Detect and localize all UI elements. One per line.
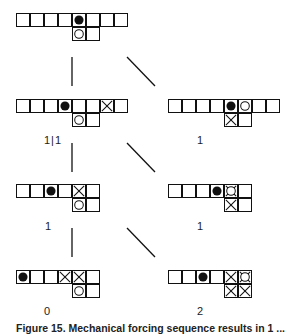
board-cell: [224, 184, 238, 198]
board-cell: [58, 270, 72, 284]
board-cell: [72, 284, 86, 298]
board-cell: [86, 270, 100, 284]
board-cell: [72, 184, 86, 198]
black-stone-icon: [73, 14, 85, 26]
board-cell: [30, 99, 44, 113]
board-cell: [72, 27, 86, 41]
board-cell: [86, 13, 100, 27]
board-cell: [238, 184, 252, 198]
board-score-label: 1: [197, 134, 204, 146]
board-cell: [86, 198, 100, 212]
board-cell: [238, 99, 252, 113]
board-cell: [30, 270, 44, 284]
board-score-label: 1: [197, 220, 204, 232]
board-cell: [16, 13, 30, 27]
board-score-label: 0: [44, 305, 51, 317]
cross-mark-icon: [225, 285, 237, 297]
cross-mark-icon: [73, 271, 85, 283]
board-cell: [86, 27, 100, 41]
connector-line: [127, 57, 155, 86]
board-cell: [72, 113, 86, 127]
black-stone-icon: [59, 100, 71, 112]
cross-mark-icon: [225, 271, 237, 283]
board-cell: [224, 270, 238, 284]
board-cell: [210, 184, 224, 198]
board-cell: [168, 184, 182, 198]
board-cell: [72, 99, 86, 113]
board-cell: [114, 13, 128, 27]
black-stone-icon: [45, 185, 57, 197]
board-cell: [224, 198, 238, 212]
board-cell: [114, 99, 128, 113]
board-cell: [86, 184, 100, 198]
board-cell: [224, 284, 238, 298]
board-cell: [44, 270, 58, 284]
board-cell: [72, 270, 86, 284]
board-cell: [182, 270, 196, 284]
white-stone-icon: [73, 28, 85, 40]
board-cell: [238, 113, 252, 127]
cross-mark-icon: [59, 271, 71, 283]
board-cell: [16, 99, 30, 113]
connector-line: [127, 228, 155, 257]
board-cell: [30, 13, 44, 27]
board-cell: [58, 184, 72, 198]
board-cell: [168, 270, 182, 284]
cross-with-white-stone-icon: [239, 271, 251, 283]
board-cell: [238, 198, 252, 212]
board-cell: [210, 270, 224, 284]
board-cell: [16, 184, 30, 198]
board-cell: [238, 284, 252, 298]
board-cell: [72, 13, 86, 27]
cross-mark-icon: [225, 114, 237, 126]
connector-line: [127, 143, 155, 172]
black-stone-icon: [197, 271, 209, 283]
board-cell: [16, 270, 30, 284]
board-cell: [44, 13, 58, 27]
white-stone-icon: [73, 199, 85, 211]
cross-mark-icon: [73, 185, 85, 197]
board-cell: [252, 99, 266, 113]
black-stone-icon: [225, 100, 237, 112]
black-stone-icon: [17, 271, 29, 283]
figure-caption: Figure 15. Mechanical forcing sequence r…: [16, 322, 285, 334]
board-cell: [168, 99, 182, 113]
cross-mark-icon: [101, 100, 113, 112]
board-score-label: 1: [45, 220, 52, 232]
board-cell: [86, 284, 100, 298]
board-cell: [58, 13, 72, 27]
board-cell: [44, 184, 58, 198]
board-cell: [72, 198, 86, 212]
board-cell: [44, 99, 58, 113]
white-stone-icon: [73, 114, 85, 126]
cross-with-white-stone-icon: [225, 185, 237, 197]
cross-mark-icon: [225, 199, 237, 211]
board-cell: [182, 99, 196, 113]
board-cell: [100, 13, 114, 27]
board-cell: [182, 184, 196, 198]
board-cell: [86, 99, 100, 113]
board-score-label: 1|1: [44, 134, 62, 146]
board-cell: [196, 184, 210, 198]
white-stone-icon: [73, 285, 85, 297]
board-cell: [196, 99, 210, 113]
cross-mark-icon: [239, 285, 251, 297]
board-cell: [266, 99, 280, 113]
board-cell: [210, 99, 224, 113]
board-cell: [58, 99, 72, 113]
black-stone-icon: [211, 185, 223, 197]
board-cell: [100, 99, 114, 113]
board-cell: [86, 113, 100, 127]
board-score-label: 2: [197, 305, 204, 317]
board-cell: [224, 113, 238, 127]
board-cell: [30, 184, 44, 198]
board-cell: [196, 270, 210, 284]
board-cell: [224, 99, 238, 113]
white-stone-icon: [239, 100, 251, 112]
board-cell: [238, 270, 252, 284]
